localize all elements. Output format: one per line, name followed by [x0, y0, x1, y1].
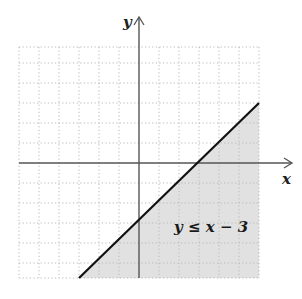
inequality-label: y ≤ x − 3 [173, 218, 248, 236]
x-axis-label: x [281, 170, 292, 188]
inequality-graph: y x y ≤ x − 3 [0, 0, 302, 299]
y-axis-label: y [122, 13, 133, 31]
